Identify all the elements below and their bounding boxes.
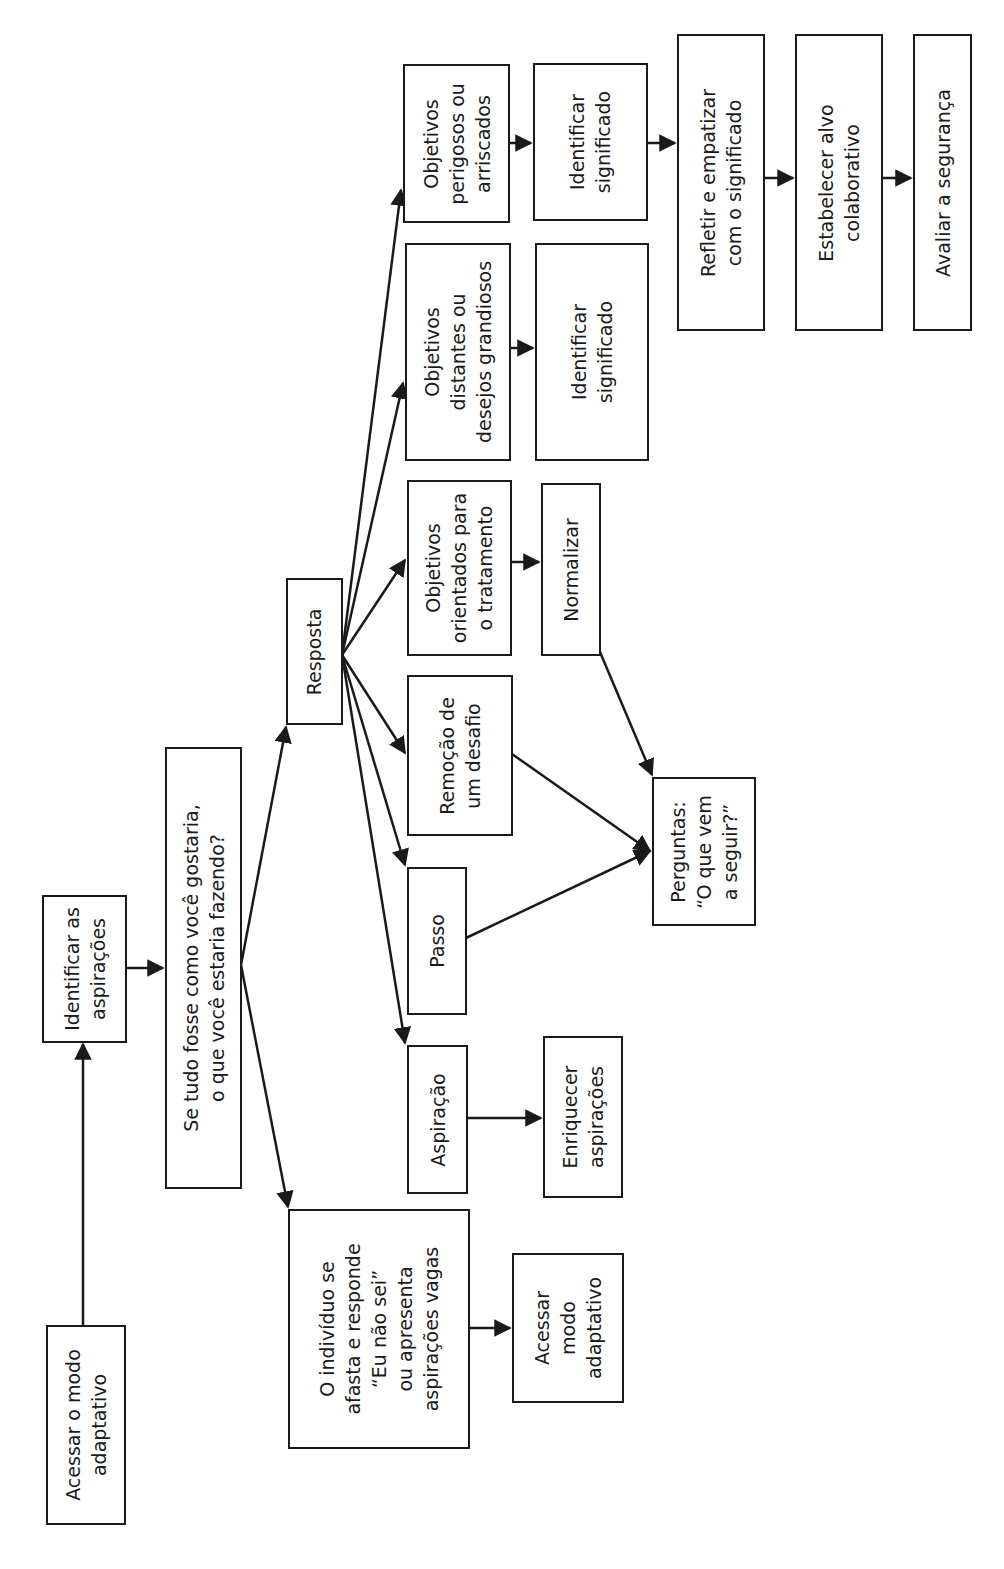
node-label: Passo: [424, 914, 450, 968]
node-label: Remoção de um desafio: [434, 697, 486, 815]
node-label: Acessar modo adaptativo: [529, 1277, 607, 1379]
node-label: Identificar as aspirações: [59, 907, 111, 1031]
node-objetivos-perigosos: Objetivos perigosos ou arriscados: [403, 64, 510, 223]
node-label: O indivíduo se afasta e responde “Eu não…: [314, 1243, 444, 1414]
node-avaliar-seguranca: Avaliar a segurança: [913, 34, 972, 331]
edge-resposta-to-remocao: [342, 655, 405, 753]
node-label: Aspiração: [425, 1073, 451, 1166]
node-acessar-modo-adaptativo-leaf: Acessar modo adaptativo: [512, 1253, 624, 1403]
node-label: Se tudo fosse como você gostaria, o que …: [178, 804, 230, 1132]
edge-pergunta-to-individuo: [241, 965, 288, 1207]
node-individuo-se-afasta: O indivíduo se afasta e responde “Eu não…: [288, 1209, 470, 1449]
node-label: Estabelecer alvo colaborativo: [813, 104, 865, 262]
node-label: Enriquecer aspirações: [557, 1066, 609, 1169]
node-label: Objetivos perigosos ou arriscados: [418, 83, 496, 205]
edge-pergunta-to-resposta: [241, 727, 286, 965]
node-label: Normalizar: [558, 518, 584, 621]
node-perguntas-o-que-vem: Perguntas: “O que vem a seguir?”: [652, 777, 756, 926]
node-identificar-significado-1: Identificar significado: [533, 63, 648, 221]
edge-resposta-to-passo: [342, 655, 405, 865]
edge-resposta-to-aspiracao: [342, 655, 405, 1043]
node-aspiracao: Aspiração: [407, 1045, 468, 1194]
edge-remocao-to-perguntas: [512, 754, 650, 851]
edge-passo-to-perguntas: [466, 851, 650, 938]
node-label: Avaliar a segurança: [930, 89, 956, 277]
node-label: Identificar significado: [566, 301, 618, 403]
node-label: Refletir e empatizar com o significado: [695, 88, 747, 276]
node-remocao-desafio: Remoção de um desafio: [407, 675, 513, 836]
edge-resposta-to-perigosos: [342, 190, 401, 655]
node-label: Objetivos distantes ou desejos grandioso…: [419, 261, 497, 443]
node-resposta: Resposta: [286, 578, 343, 725]
node-label: Resposta: [302, 608, 328, 695]
edge-normalizar-to-perguntas: [600, 652, 652, 775]
node-acessar-modo-adaptativo-root: Acessar o modo adaptativo: [46, 1325, 126, 1525]
node-passo: Passo: [407, 867, 467, 1015]
node-refletir-empatizar: Refletir e empatizar com o significado: [677, 34, 765, 331]
node-objetivos-tratamento: Objetivos orientados para o tratamento: [407, 480, 512, 656]
node-label: Identificar significado: [565, 91, 617, 193]
node-label: Objetivos orientados para o tratamento: [421, 493, 499, 643]
node-normalizar: Normalizar: [541, 483, 601, 656]
node-pergunta-se-tudo-fosse: Se tudo fosse como você gostaria, o que …: [165, 747, 242, 1189]
node-identificar-aspiracoes: Identificar as aspirações: [42, 895, 127, 1043]
node-enriquecer-aspiracoes: Enriquecer aspirações: [543, 1036, 623, 1198]
node-objetivos-distantes: Objetivos distantes ou desejos grandioso…: [405, 243, 511, 461]
node-identificar-significado-2: Identificar significado: [535, 243, 649, 461]
node-label: Perguntas: “O que vem a seguir?”: [665, 795, 743, 908]
node-label: Acessar o modo adaptativo: [60, 1349, 112, 1501]
node-estabelecer-alvo: Estabelecer alvo colaborativo: [795, 34, 883, 331]
